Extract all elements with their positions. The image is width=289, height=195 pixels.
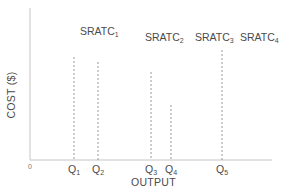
q3-label: Q3 <box>145 164 157 176</box>
q5-label: Q5 <box>216 164 228 176</box>
curve-label-sratc3: SRATC3 <box>195 32 234 44</box>
cost-output-diagram: COST ($) 0 OUTPUT SRATC1 SRATC2 SRATC3 S… <box>0 0 289 195</box>
q1-label: Q1 <box>68 164 80 176</box>
q2-label: Q2 <box>92 164 104 176</box>
curve-label-sratc1: SRATC1 <box>80 26 119 38</box>
x-axis-label: OUTPUT <box>131 176 176 188</box>
quantity-guidelines <box>74 50 222 160</box>
q4-label: Q4 <box>165 164 177 176</box>
curve-label-sratc2: SRATC2 <box>145 32 184 44</box>
curve-label-sratc4: SRATC4 <box>240 32 279 44</box>
origin-label: 0 <box>28 163 32 170</box>
y-axis-label: COST ($) <box>5 71 17 118</box>
